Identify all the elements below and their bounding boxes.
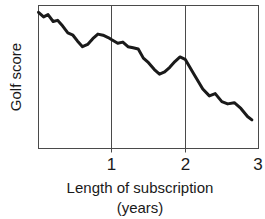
- x-tick-label-1: 1: [107, 155, 116, 174]
- chart-screenshot: 1 2 3 Length of subscription (years) Gol…: [0, 0, 265, 219]
- y-axis-title: Golf score: [7, 43, 24, 111]
- plot-frame: [39, 6, 259, 149]
- x-axis-title-units: (years): [117, 199, 164, 216]
- x-tick-label-2: 2: [181, 155, 190, 174]
- x-axis-title: Length of subscription: [67, 179, 214, 196]
- x-tick-label-3: 3: [253, 155, 262, 174]
- golf-score-line-chart: 1 2 3 Length of subscription (years) Gol…: [0, 0, 265, 219]
